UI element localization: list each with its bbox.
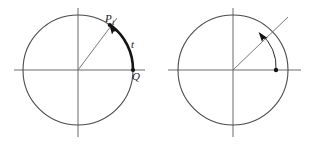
left-bold-arc-Q-to-Pt — [112, 26, 134, 70]
right-interior-point-marker — [274, 68, 278, 72]
arc-length-t-label: t — [131, 38, 135, 50]
figure-container: Pt t Q — [0, 0, 313, 144]
right-terminal-radius — [233, 17, 288, 70]
right-arc-arrowhead-icon — [259, 32, 268, 42]
right-panel — [168, 8, 301, 137]
left-panel: Pt t Q — [14, 8, 145, 137]
point-Q-label: Q — [132, 70, 140, 82]
trig-unit-circle-figure: Pt t Q — [0, 0, 313, 144]
point-P-t-subscript: t — [112, 18, 115, 27]
